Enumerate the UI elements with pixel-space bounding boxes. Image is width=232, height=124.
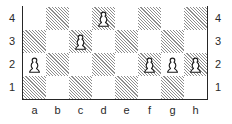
board-square-h4[interactable] (184, 7, 207, 30)
board-square-f3[interactable] (138, 30, 161, 53)
board-square-f4[interactable] (138, 7, 161, 30)
board-square-d3[interactable] (92, 30, 115, 53)
rank-label-2-right: 2 (210, 53, 226, 76)
board-square-g1[interactable] (161, 76, 184, 99)
board-square-h1[interactable] (184, 76, 207, 99)
board-square-b3[interactable] (46, 30, 69, 53)
board-square-b4[interactable] (46, 7, 69, 30)
board-square-c1[interactable] (69, 76, 92, 99)
file-label-b: b (46, 101, 69, 121)
board-square-e2[interactable] (115, 53, 138, 76)
board-square-a2[interactable] (23, 53, 46, 76)
board-square-c4[interactable] (69, 7, 92, 30)
board-square-f1[interactable] (138, 76, 161, 99)
board-square-g3[interactable] (161, 30, 184, 53)
rank-label-4-right: 4 (210, 7, 226, 30)
rank-label-1-left: 1 (4, 76, 20, 99)
board-square-e1[interactable] (115, 76, 138, 99)
board-square-g4[interactable] (161, 7, 184, 30)
file-label-g: g (161, 101, 184, 121)
rank-label-3-left: 3 (4, 30, 20, 53)
board-square-a4[interactable] (23, 7, 46, 30)
board-square-d4[interactable] (92, 7, 115, 30)
file-label-e: e (115, 101, 138, 121)
rank-label-2-left: 2 (4, 53, 20, 76)
board-square-h3[interactable] (184, 30, 207, 53)
file-label-c: c (69, 101, 92, 121)
board-square-d1[interactable] (92, 76, 115, 99)
board-squares (23, 7, 207, 99)
board-square-c2[interactable] (69, 53, 92, 76)
chess-diagram: 4321 4321 abcdefgh (0, 0, 232, 124)
rank-label-1-right: 1 (210, 76, 226, 99)
board-square-h2[interactable] (184, 53, 207, 76)
file-label-f: f (138, 101, 161, 121)
file-label-a: a (23, 101, 46, 121)
file-labels: abcdefgh (23, 101, 207, 121)
board-square-a3[interactable] (23, 30, 46, 53)
board-square-a1[interactable] (23, 76, 46, 99)
board-square-d2[interactable] (92, 53, 115, 76)
board-square-g2[interactable] (161, 53, 184, 76)
board-square-b1[interactable] (46, 76, 69, 99)
board-square-e3[interactable] (115, 30, 138, 53)
board-square-e4[interactable] (115, 7, 138, 30)
chess-board[interactable] (23, 7, 207, 99)
file-label-h: h (184, 101, 207, 121)
rank-label-3-right: 3 (210, 30, 226, 53)
rank-label-4-left: 4 (4, 7, 20, 30)
file-label-d: d (92, 101, 115, 121)
board-square-c3[interactable] (69, 30, 92, 53)
board-square-f2[interactable] (138, 53, 161, 76)
board-square-b2[interactable] (46, 53, 69, 76)
